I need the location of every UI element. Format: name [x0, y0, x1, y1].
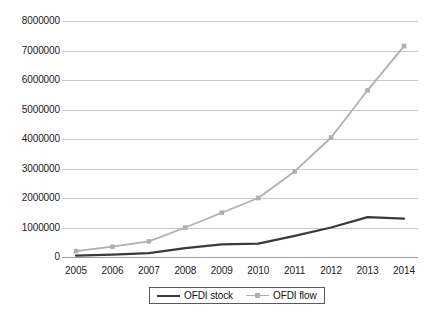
- data-point-marker: [402, 44, 407, 49]
- data-point-marker: [329, 135, 334, 140]
- line-chart: 0100000020000003000000400000050000006000…: [0, 0, 433, 315]
- legend-swatch-icon: [157, 291, 180, 300]
- series-layer: [62, 21, 418, 257]
- legend-label: OFDI flow: [273, 291, 317, 301]
- data-point-marker: [147, 239, 152, 244]
- y-axis-tick-label: 8000000: [0, 16, 60, 26]
- legend-entry-ofdi-stock[interactable]: OFDI stock: [157, 291, 233, 301]
- data-point-marker: [110, 244, 115, 249]
- plot-area: [62, 21, 418, 257]
- data-point-marker: [256, 196, 261, 201]
- x-axis-tick-label: 2014: [381, 266, 427, 276]
- series-line: [76, 217, 404, 255]
- y-axis-tick-label: 4000000: [0, 134, 60, 144]
- legend-swatch-icon: [246, 291, 269, 300]
- data-point-marker: [183, 225, 188, 230]
- y-axis-tick-label: 5000000: [0, 105, 60, 115]
- data-point-marker: [74, 249, 79, 254]
- y-axis-tick-label: 6000000: [0, 75, 60, 85]
- data-point-marker: [365, 88, 370, 93]
- gridline: [62, 257, 418, 258]
- legend-label: OFDI stock: [184, 291, 233, 301]
- y-axis-tick-label: 0: [0, 252, 60, 262]
- data-point-marker: [292, 169, 297, 174]
- legend-entry-ofdi-flow[interactable]: OFDI flow: [246, 291, 317, 301]
- y-axis-tick-label: 7000000: [0, 46, 60, 56]
- y-axis-tick-label: 2000000: [0, 193, 60, 203]
- chart-legend: OFDI stockOFDI flow: [149, 287, 325, 304]
- y-axis-tick-label: 1000000: [0, 223, 60, 233]
- data-point-marker: [219, 210, 224, 215]
- y-axis-tick-label: 3000000: [0, 164, 60, 174]
